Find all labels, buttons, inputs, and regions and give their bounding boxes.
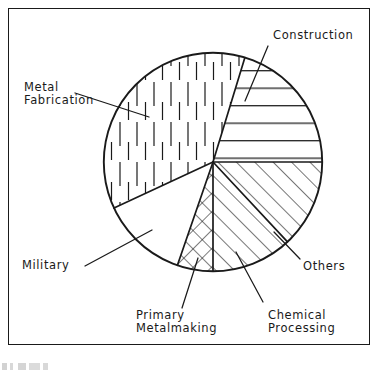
pie-label-construction: Construction — [273, 29, 353, 43]
scan-artifact — [2, 363, 48, 370]
leader-line-military — [85, 230, 152, 266]
pie-label-military: Military — [22, 259, 69, 273]
pie-label-primary-metalmaking-line2: Metalmaking — [136, 322, 217, 336]
pie-chart-figure: Construction Metal Fabrication Military … — [0, 0, 380, 371]
pie-label-chemical-processing-line2: Processing — [268, 322, 335, 336]
pie-label-others: Others — [303, 260, 345, 274]
pie-label-metal-fabrication-line2: Fabrication — [24, 94, 94, 108]
